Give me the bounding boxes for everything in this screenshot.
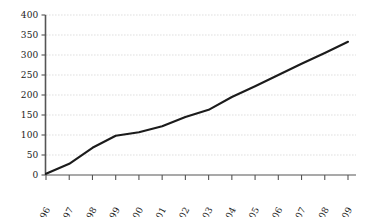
data-series-line xyxy=(46,42,348,174)
y-axis-tick-label: 250 xyxy=(21,70,39,80)
x-axis-tick-label: 1998 xyxy=(79,205,99,217)
x-axis-tick-label: 1996 xyxy=(32,205,52,217)
x-axis-labels: 1996199719981999200020012002200320042005… xyxy=(32,205,354,217)
y-axis-tick-label: 100 xyxy=(21,130,39,140)
line-chart: 050100150200250300350400 199619971998199… xyxy=(0,0,372,217)
y-axis-tick-label: 200 xyxy=(21,90,39,100)
x-axis-tick-label: 2007 xyxy=(288,205,308,217)
y-axis-tick-label: 150 xyxy=(21,110,39,120)
y-axis-tick-label: 0 xyxy=(33,170,39,180)
x-axis-tick-label: 2001 xyxy=(148,205,168,217)
x-axis-tick-label: 2006 xyxy=(265,205,285,217)
y-axis-tick-label: 300 xyxy=(21,50,39,60)
y-axis-labels: 050100150200250300350400 xyxy=(21,10,39,180)
gridlines xyxy=(47,15,357,155)
x-axis-tick-label: 1999 xyxy=(102,205,122,217)
y-axis-tick-label: 50 xyxy=(27,150,39,160)
x-axis-tick-label: 2002 xyxy=(172,205,192,217)
y-axis-tick-label: 350 xyxy=(21,30,39,40)
x-axis-tick-label: 2005 xyxy=(241,205,261,217)
x-axis-tick-label: 2008 xyxy=(311,205,331,217)
x-axis-tick-label: 2000 xyxy=(125,205,145,217)
x-axis-ticks xyxy=(46,175,348,180)
y-axis-tick-label: 400 xyxy=(21,10,39,20)
x-axis-tick-label: 2009 xyxy=(334,205,354,217)
x-axis-tick-label: 1997 xyxy=(56,205,76,217)
chart-canvas: 050100150200250300350400 199619971998199… xyxy=(0,0,372,217)
x-axis-tick-label: 2003 xyxy=(195,205,215,217)
x-axis-tick-label: 2004 xyxy=(218,205,238,217)
